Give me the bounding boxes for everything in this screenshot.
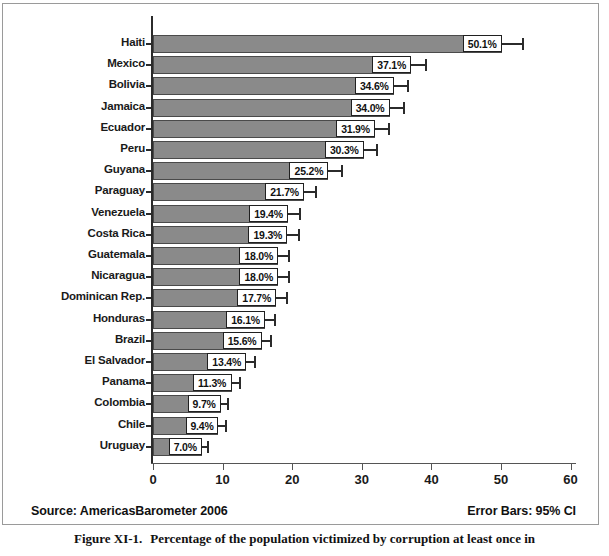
bar-row: Chile9.4% bbox=[3, 416, 600, 437]
category-tick bbox=[146, 128, 152, 130]
category-label-guyana: Guyana bbox=[5, 163, 145, 175]
bar-value-label: 18.0% bbox=[239, 247, 278, 264]
x-axis-tick-label: 0 bbox=[133, 472, 173, 487]
bar-value-label: 34.6% bbox=[355, 77, 394, 94]
bar-row: Colombia9.7% bbox=[3, 394, 600, 415]
bar bbox=[153, 35, 502, 53]
bar-row: Haiti50.1% bbox=[3, 34, 600, 55]
category-label-dominican-rep: Dominican Rep. bbox=[5, 290, 145, 302]
error-bar-cap-high bbox=[376, 144, 378, 156]
bar-value-label: 18.0% bbox=[239, 268, 278, 285]
x-axis-tick bbox=[223, 463, 224, 470]
error-bar-cap-high bbox=[239, 377, 241, 389]
category-tick bbox=[146, 276, 152, 278]
bar-value-label: 19.3% bbox=[248, 226, 287, 243]
figure-frame: Haiti50.1%Mexico37.1%Bolivia34.6%Jamaica… bbox=[2, 3, 599, 525]
error-bar-cap-high bbox=[207, 441, 209, 453]
chart-plot-area: Haiti50.1%Mexico37.1%Bolivia34.6%Jamaica… bbox=[3, 4, 600, 474]
bar-row: Peru30.3% bbox=[3, 140, 600, 161]
source-note: Source: AmericasBarometer 2006 bbox=[31, 504, 228, 518]
category-label-el-salvador: El Salvador bbox=[5, 354, 145, 366]
category-label-brazil: Brazil bbox=[5, 333, 145, 345]
category-tick bbox=[146, 191, 152, 193]
x-axis-tick-label: 20 bbox=[272, 472, 312, 487]
x-axis-tick-label: 30 bbox=[342, 472, 382, 487]
error-bar-cap-high bbox=[270, 335, 272, 347]
category-tick bbox=[146, 234, 152, 236]
x-axis-tick-label: 10 bbox=[203, 472, 243, 487]
bar-value-label: 9.7% bbox=[188, 395, 221, 412]
category-label-guatemala: Guatemala bbox=[5, 248, 145, 260]
bar-row: Panama11.3% bbox=[3, 373, 600, 394]
category-label-panama: Panama bbox=[5, 375, 145, 387]
bar-value-label: 11.3% bbox=[193, 374, 232, 391]
figure-caption-number: Figure XI-1. bbox=[74, 531, 142, 546]
bar-value-label: 19.4% bbox=[249, 205, 288, 222]
bar-value-label: 16.1% bbox=[226, 311, 265, 328]
error-bar-cap-high bbox=[407, 80, 409, 92]
category-label-haiti: Haiti bbox=[5, 36, 145, 48]
x-axis-tick bbox=[153, 463, 154, 470]
category-label-mexico: Mexico bbox=[5, 57, 145, 69]
x-axis-tick bbox=[362, 463, 363, 470]
error-bar-cap-high bbox=[315, 186, 317, 198]
x-axis-tick-label: 60 bbox=[551, 472, 591, 487]
bar-row: Honduras16.1% bbox=[3, 310, 600, 331]
category-tick bbox=[146, 446, 152, 448]
error-bar-cap-high bbox=[288, 250, 290, 262]
bar-value-label: 17.7% bbox=[237, 289, 276, 306]
bar-row: Guyana25.2% bbox=[3, 161, 600, 182]
bar-row: Jamaica34.0% bbox=[3, 98, 600, 119]
bar-row: Venezuela19.4% bbox=[3, 204, 600, 225]
category-tick bbox=[146, 403, 152, 405]
bar-row: Nicaragua18.0% bbox=[3, 267, 600, 288]
error-bar-cap-high bbox=[227, 398, 229, 410]
category-tick bbox=[146, 297, 152, 299]
x-axis-tick bbox=[501, 463, 502, 470]
error-bar-cap-high bbox=[225, 420, 227, 432]
category-label-uruguay: Uruguay bbox=[5, 439, 145, 451]
category-label-honduras: Honduras bbox=[5, 312, 145, 324]
bar-row: El Salvador13.4% bbox=[3, 352, 600, 373]
x-axis-tick-label: 50 bbox=[481, 472, 521, 487]
bar-value-label: 7.0% bbox=[169, 438, 202, 455]
bar-value-label: 30.3% bbox=[325, 141, 364, 158]
category-label-bolivia: Bolivia bbox=[5, 78, 145, 90]
bar-value-label: 37.1% bbox=[372, 56, 411, 73]
bar-value-label: 21.7% bbox=[265, 183, 304, 200]
bar-row: Mexico37.1% bbox=[3, 55, 600, 76]
category-tick bbox=[146, 85, 152, 87]
bar-value-label: 34.0% bbox=[351, 99, 390, 116]
category-tick bbox=[146, 255, 152, 257]
x-axis-tick-label: 40 bbox=[411, 472, 451, 487]
category-label-venezuela: Venezuela bbox=[5, 206, 145, 218]
category-tick bbox=[146, 382, 152, 384]
error-bar-cap-high bbox=[388, 123, 390, 135]
bar-row: Costa Rica19.3% bbox=[3, 225, 600, 246]
category-label-peru: Peru bbox=[5, 142, 145, 154]
category-tick bbox=[146, 340, 152, 342]
category-label-colombia: Colombia bbox=[5, 396, 145, 408]
bar-row: Bolivia34.6% bbox=[3, 76, 600, 97]
category-label-jamaica: Jamaica bbox=[5, 100, 145, 112]
bar-row: Dominican Rep.17.7% bbox=[3, 288, 600, 309]
bar-value-label: 50.1% bbox=[463, 35, 502, 52]
error-bar-cap-high bbox=[274, 314, 276, 326]
category-label-costa-rica: Costa Rica bbox=[5, 227, 145, 239]
error-bar-cap-high bbox=[298, 229, 300, 241]
error-bar-cap-high bbox=[341, 165, 343, 177]
bar-value-label: 31.9% bbox=[336, 120, 375, 137]
category-tick bbox=[146, 319, 152, 321]
bar-row: Paraguay21.7% bbox=[3, 182, 600, 203]
bar-value-label: 15.6% bbox=[223, 332, 262, 349]
category-tick bbox=[146, 170, 152, 172]
bar-row: Brazil15.6% bbox=[3, 331, 600, 352]
x-axis-tick bbox=[431, 463, 432, 470]
category-label-nicaragua: Nicaragua bbox=[5, 269, 145, 281]
bar-value-label: 13.4% bbox=[207, 353, 246, 370]
error-bar-cap-high bbox=[286, 292, 288, 304]
category-label-chile: Chile bbox=[5, 418, 145, 430]
bar-value-label: 25.2% bbox=[289, 162, 328, 179]
error-bar-cap-high bbox=[254, 356, 256, 368]
bar-row: Ecuador31.9% bbox=[3, 119, 600, 140]
